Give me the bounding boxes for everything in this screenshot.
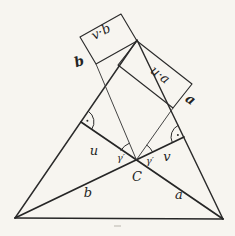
geometry-figure: v·b b u·a a u v γ′ γ′ C b a bbox=[0, 0, 235, 236]
label-gamma-left: γ′ bbox=[117, 152, 126, 163]
label-b-side: b bbox=[72, 52, 86, 70]
altitude-from-right-vertex bbox=[81, 122, 223, 219]
altitude-from-left-vertex bbox=[15, 137, 184, 218]
label-a-segment: a bbox=[175, 187, 183, 202]
label-u-segment: u bbox=[90, 143, 98, 158]
label-v-segment: v bbox=[163, 149, 171, 164]
right-angle-dot-right bbox=[177, 134, 179, 136]
label-b-segment: b bbox=[84, 185, 92, 200]
rect-vb-outline bbox=[80, 14, 137, 64]
label-gamma-right: γ′ bbox=[146, 155, 155, 166]
figure-canvas: v·b b u·a a u v γ′ γ′ C b a bbox=[0, 0, 235, 236]
gamma-arc-right bbox=[147, 145, 153, 152]
label-vb-product: v·b bbox=[88, 20, 113, 43]
right-angle-dot-left bbox=[86, 120, 88, 122]
triangle-base bbox=[15, 218, 223, 219]
label-point-c: C bbox=[132, 169, 142, 184]
gamma-arc-left bbox=[121, 143, 130, 151]
